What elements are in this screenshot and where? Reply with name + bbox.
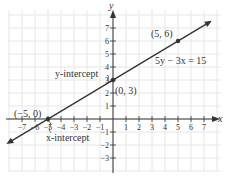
y-tick-label: 4 (105, 63, 109, 72)
y-tick-label: 6 (105, 37, 109, 46)
x-tick-label: 5 (176, 123, 180, 132)
y-axis-arrow-icon (110, 10, 116, 18)
y-tick-label: 2 (105, 89, 109, 98)
x-intercept-label: x-intercept (46, 132, 90, 143)
y-tick-label: 1 (105, 102, 109, 111)
x-tick-label: 1 (124, 123, 128, 132)
y-tick-label: 7 (105, 24, 109, 33)
data-point (111, 78, 115, 82)
line-arrow-start-icon (6, 138, 14, 144)
x-tick-label: −7 (18, 123, 27, 132)
x-tick-label: −3 (70, 123, 79, 132)
y-tick-label: −3 (100, 154, 109, 163)
y-axis-label: y (108, 0, 114, 11)
x-tick-label: 7 (202, 123, 206, 132)
data-point (176, 39, 180, 43)
y-tick-label: 5 (105, 50, 109, 59)
line-arrow-end-icon (204, 21, 212, 27)
line-series (6, 21, 211, 144)
point-label-5-6: (5, 6) (151, 28, 173, 40)
x-tick-label: −2 (83, 123, 92, 132)
equation-label: 5y − 3x = 15 (155, 55, 206, 66)
x-axis-label: x (217, 113, 223, 124)
point-label-neg5-0: (−5, 0) (14, 108, 41, 120)
y-tick-label: −2 (100, 141, 109, 150)
y-intercept-label: y-intercept (55, 68, 99, 79)
point-label-0-3: (0, 3) (115, 85, 137, 97)
x-tick-label: 3 (150, 123, 154, 132)
coordinate-plot: −7−6−5−4−3−2−11234567−3−2−11234567 x y (… (0, 0, 228, 178)
x-tick-label: 6 (189, 123, 193, 132)
x-tick-label: 2 (137, 123, 141, 132)
x-tick-label: −4 (57, 123, 66, 132)
y-tick-label: −1 (100, 128, 109, 137)
data-point (46, 117, 50, 121)
x-tick-label: 4 (163, 123, 167, 132)
